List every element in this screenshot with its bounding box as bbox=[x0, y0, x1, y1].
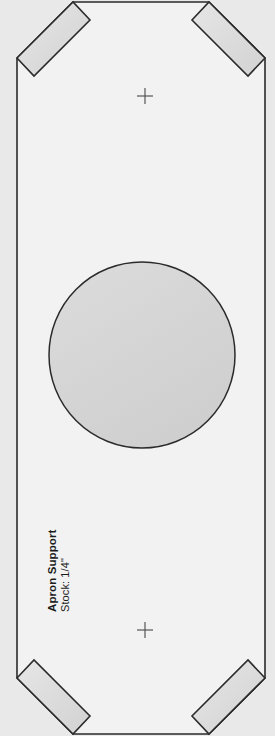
center-bore bbox=[49, 262, 235, 448]
template-sheet: Apron Support Stock: 1/4" bbox=[0, 0, 275, 736]
part-drawing bbox=[0, 0, 275, 736]
